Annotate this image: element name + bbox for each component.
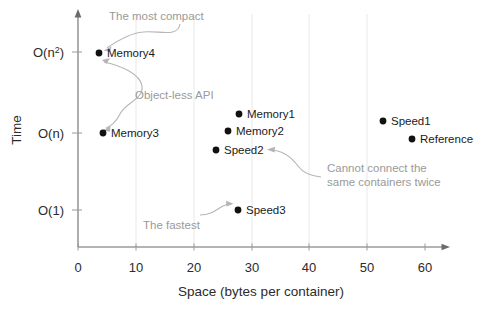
data-point-memory2[interactable] bbox=[225, 128, 232, 135]
x-tick-label-50: 50 bbox=[360, 260, 374, 275]
data-point-speed3[interactable] bbox=[235, 207, 242, 214]
x-tick-label-60: 60 bbox=[418, 260, 432, 275]
the-fastest-arrowhead bbox=[226, 201, 234, 207]
data-point-memory3[interactable] bbox=[100, 130, 107, 137]
y-tick-label-o1: O(1) bbox=[38, 203, 64, 218]
x-tick-label-30: 30 bbox=[245, 260, 259, 275]
x-tick-label-10: 10 bbox=[129, 260, 143, 275]
data-point-label-memory1: Memory1 bbox=[247, 108, 295, 120]
y-tickmarks bbox=[72, 52, 82, 210]
y-tick-labels: O(n2) O(n) O(1) bbox=[33, 45, 64, 218]
x-tick-label-0: 0 bbox=[74, 260, 81, 275]
the-fastest-connector bbox=[200, 204, 231, 215]
data-point-memory4[interactable] bbox=[96, 50, 103, 57]
x-axis-arrowhead bbox=[442, 244, 451, 250]
cannot-connect-arrowhead bbox=[267, 147, 275, 153]
data-point-speed1[interactable] bbox=[380, 118, 387, 125]
y-tick-label-on: O(n) bbox=[38, 126, 64, 141]
data-point-speed2[interactable] bbox=[213, 147, 220, 154]
annotation-object-less-api: Object-less API bbox=[135, 89, 214, 101]
y-tick-label-on2: O(n2) bbox=[33, 45, 64, 60]
chart-canvas: 0 10 20 30 40 50 60 O(n2) O(n) O(1) Spac… bbox=[0, 0, 479, 310]
data-point-memory1[interactable] bbox=[236, 111, 243, 118]
data-point-label-speed1: Speed1 bbox=[391, 115, 431, 127]
most-compact-connector bbox=[107, 24, 180, 48]
data-point-label-memory4: Memory4 bbox=[107, 47, 156, 59]
data-point-label-memory2: Memory2 bbox=[236, 125, 284, 137]
scatter-chart: 0 10 20 30 40 50 60 O(n2) O(n) O(1) Spac… bbox=[0, 0, 479, 310]
x-tick-labels: 0 10 20 30 40 50 60 bbox=[74, 260, 432, 275]
x-tick-label-40: 40 bbox=[302, 260, 316, 275]
data-point-label-reference: Reference bbox=[420, 133, 473, 145]
y-axis-arrowhead bbox=[75, 9, 82, 18]
annotation-most-compact: The most compact bbox=[109, 10, 204, 22]
data-point-label-speed2: Speed2 bbox=[224, 144, 264, 156]
cannot-connect-connector bbox=[270, 150, 321, 177]
data-point-reference[interactable] bbox=[409, 136, 416, 143]
x-tick-label-20: 20 bbox=[187, 260, 201, 275]
annotation-cannot-connect-line2: same containers twice bbox=[327, 176, 441, 188]
data-points: Memory4 Memory3 Memory1 Memory2 Speed2 S… bbox=[96, 47, 473, 216]
annotation-the-fastest: The fastest bbox=[143, 219, 201, 231]
x-axis-title: Space (bytes per container) bbox=[178, 284, 344, 299]
data-point-label-memory3: Memory3 bbox=[111, 127, 159, 139]
data-point-label-speed3: Speed3 bbox=[246, 204, 286, 216]
annotation-cannot-connect-line1: Cannot connect the bbox=[327, 162, 427, 174]
y-axis-title: Time bbox=[9, 115, 24, 145]
